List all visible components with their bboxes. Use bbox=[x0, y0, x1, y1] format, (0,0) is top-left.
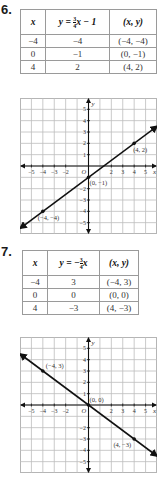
svg-text:−5: −5 bbox=[80, 459, 86, 465]
table-row: 00(0, 0) bbox=[23, 289, 139, 302]
svg-text:−5: −5 bbox=[80, 220, 86, 226]
svg-text:1: 1 bbox=[83, 391, 86, 397]
svg-text:4: 4 bbox=[133, 169, 136, 175]
svg-text:5: 5 bbox=[144, 169, 147, 175]
svg-text:3: 3 bbox=[83, 129, 86, 135]
svg-text:−4: −4 bbox=[80, 447, 86, 453]
svg-text:2: 2 bbox=[83, 379, 86, 385]
table-row: 0−1(0, −1) bbox=[21, 48, 157, 61]
svg-text:−4: −4 bbox=[40, 169, 46, 175]
svg-text:5: 5 bbox=[83, 345, 86, 351]
svg-text:4: 4 bbox=[83, 357, 86, 363]
header-x: x bbox=[21, 10, 46, 35]
svg-text:(4, −3): (4, −3) bbox=[113, 441, 131, 449]
problem-number: 7. bbox=[1, 244, 12, 259]
svg-text:5: 5 bbox=[144, 408, 147, 414]
svg-text:2: 2 bbox=[110, 169, 113, 175]
header-equation: y = −34x bbox=[48, 251, 100, 276]
svg-text:2: 2 bbox=[83, 140, 86, 146]
header-pair: (x, y) bbox=[100, 251, 139, 276]
svg-text:3: 3 bbox=[121, 169, 124, 175]
svg-text:−4: −4 bbox=[40, 408, 46, 414]
graph-7: −5−4−3−22345−5−4−3−212345xyO(−4, 3)(0, 0… bbox=[20, 337, 157, 473]
svg-text:−2: −2 bbox=[80, 425, 86, 431]
table-row: 42(4, 2) bbox=[21, 61, 157, 74]
table-row: −43(−4, 3) bbox=[23, 276, 139, 289]
svg-text:(0, 0): (0, 0) bbox=[90, 396, 104, 404]
problem-number: 6. bbox=[1, 2, 12, 17]
svg-text:−3: −3 bbox=[80, 436, 86, 442]
svg-text:3: 3 bbox=[121, 408, 124, 414]
svg-text:O: O bbox=[82, 168, 87, 175]
svg-text:−5: −5 bbox=[28, 169, 34, 175]
svg-text:−3: −3 bbox=[51, 169, 57, 175]
svg-text:2: 2 bbox=[110, 408, 113, 414]
svg-text:−2: −2 bbox=[62, 169, 68, 175]
header-pair: (x, y) bbox=[110, 10, 157, 35]
svg-text:(0, −1): (0, −1) bbox=[90, 179, 108, 187]
svg-text:(4, 2): (4, 2) bbox=[133, 146, 147, 154]
value-table-7: x y = −34x (x, y) −43(−4, 3) 00(0, 0) 4−… bbox=[22, 250, 139, 315]
header-equation: y = 34x − 1 bbox=[46, 10, 110, 35]
svg-text:5: 5 bbox=[83, 106, 86, 112]
svg-text:−3: −3 bbox=[80, 197, 86, 203]
svg-text:−2: −2 bbox=[80, 186, 86, 192]
svg-text:1: 1 bbox=[83, 152, 86, 158]
svg-text:−5: −5 bbox=[28, 408, 34, 414]
svg-text:O: O bbox=[82, 407, 87, 414]
svg-text:3: 3 bbox=[83, 368, 86, 374]
svg-text:4: 4 bbox=[133, 408, 136, 414]
svg-text:−2: −2 bbox=[62, 408, 68, 414]
graph-6: −5−4−3−22345−5−4−3−212345xyO(−4, −4)(0, … bbox=[20, 98, 157, 234]
table-row: −4−4(−4, −4) bbox=[21, 35, 157, 48]
svg-text:−4: −4 bbox=[80, 208, 86, 214]
table-row: 4−3(4, −3) bbox=[23, 302, 139, 315]
value-table-6: x y = 34x − 1 (x, y) −4−4(−4, −4) 0−1(0,… bbox=[20, 9, 157, 74]
svg-text:(−4, 3): (−4, 3) bbox=[46, 362, 64, 370]
svg-text:4: 4 bbox=[83, 118, 86, 124]
svg-text:−3: −3 bbox=[51, 408, 57, 414]
svg-text:(−4, −4): (−4, −4) bbox=[38, 214, 59, 222]
header-x: x bbox=[23, 251, 48, 276]
